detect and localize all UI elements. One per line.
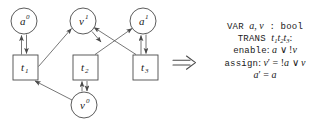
transition-t2-subscript: 2: [85, 67, 89, 75]
place-v1-label: v: [79, 15, 84, 27]
transition-group: t 1 t 2 t 3: [13, 55, 158, 80]
place-v0-superscript: 0: [86, 97, 90, 105]
graph-svg: a 0 v 1 a 1 v 0 t 1 t 2: [0, 0, 200, 126]
edge-t1-to-v1: [39, 29, 72, 67]
place-v1-superscript: 1: [85, 13, 89, 21]
code-line-enable: enable: a ∨ !v: [200, 44, 330, 56]
transition-t1-subscript: 1: [25, 67, 29, 75]
smv-code-block: VAR a, v : bool TRANS t1t2t3: enable: a …: [200, 20, 330, 81]
implies-arrow-icon: [172, 53, 200, 73]
place-a0-superscript: 0: [26, 13, 30, 21]
implies-arrow: [172, 53, 200, 73]
petri-net-graph: a 0 v 1 a 1 v 0 t 1 t 2: [0, 0, 200, 126]
code-line-var: VAR a, v : bool: [200, 20, 330, 32]
edge-v0-to-t1: [35, 81, 72, 100]
code-line-assign: assign: v′ = !a ∨ v: [200, 57, 330, 69]
place-v0-label: v: [80, 99, 85, 111]
place-a1-superscript: 1: [145, 13, 149, 21]
transition-t3-subscript: 3: [144, 67, 149, 75]
code-line-trans: TRANS t1t2t3:: [200, 32, 330, 44]
code-line-assign-2: a′ = a: [200, 69, 330, 81]
figure-root: a 0 v 1 a 1 v 0 t 1 t 2: [0, 0, 330, 126]
edge-v1-to-t2: [92, 32, 101, 43]
